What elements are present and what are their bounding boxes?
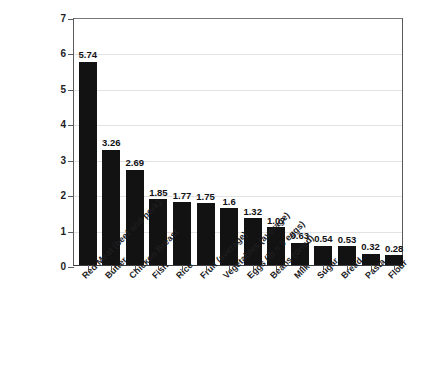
bar-value-label: 1.07: [259, 216, 293, 226]
y-axis-label: 4: [46, 120, 66, 130]
x-axis-tick: [229, 265, 230, 270]
bar[interactable]: [291, 243, 309, 265]
x-axis-tick: [135, 265, 136, 270]
x-axis-tick: [111, 265, 112, 270]
bar[interactable]: [126, 170, 144, 265]
y-axis-label: 1: [46, 227, 66, 237]
x-axis-tick: [276, 265, 277, 270]
bar[interactable]: [149, 199, 167, 265]
x-axis-tick: [300, 265, 301, 270]
bar[interactable]: [314, 246, 332, 265]
bar-value-label: 1.6: [212, 197, 246, 207]
bar-value-label: 2.69: [118, 158, 152, 168]
bar[interactable]: [79, 62, 97, 265]
y-axis-label: 0: [46, 262, 66, 272]
x-axis-tick: [88, 265, 89, 270]
bar[interactable]: [385, 255, 403, 265]
y-axis-label: 6: [46, 49, 66, 59]
x-axis-tick: [182, 265, 183, 270]
bar-value-label: 5.74: [71, 50, 105, 60]
x-axis-tick: [158, 265, 159, 270]
y-axis-label: 2: [46, 191, 66, 201]
y-axis-label: 5: [46, 85, 66, 95]
chart-title: [140, 0, 320, 5]
x-axis-tick: [253, 265, 254, 270]
x-axis-tick: [371, 265, 372, 270]
bar-value-label: 3.26: [94, 138, 128, 148]
x-axis-tick: [323, 265, 324, 270]
bar[interactable]: [173, 202, 191, 265]
bar[interactable]: [362, 254, 380, 265]
x-axis-tick: [394, 265, 395, 270]
bar-chart-figure: 01234567 5.743.262.691.851.771.751.61.32…: [0, 0, 423, 368]
x-axis-tick: [347, 265, 348, 270]
bar[interactable]: [220, 208, 238, 265]
y-axis-label: 7: [46, 14, 66, 24]
bar[interactable]: [244, 218, 262, 265]
x-axis-tick: [206, 265, 207, 270]
plot-area: 01234567 5.743.262.691.851.771.751.61.32…: [73, 18, 403, 266]
y-axis-tick: [68, 267, 74, 268]
bars-layer: 5.743.262.691.851.771.751.61.321.070.630…: [74, 19, 402, 265]
y-axis-label: 3: [46, 156, 66, 166]
bar-value-label: 0.28: [377, 244, 411, 254]
bar[interactable]: [197, 203, 215, 265]
